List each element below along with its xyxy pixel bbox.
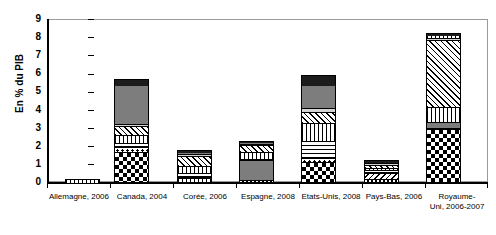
x-axis-label-royaume-uni: Royaume- Uni, 2006-2007 xyxy=(420,192,494,212)
y-tick-marks xyxy=(47,19,48,183)
bar-segment xyxy=(240,153,273,160)
bar-segment xyxy=(240,146,273,153)
x-axis-label-canada: Canada, 2004 xyxy=(107,192,177,202)
bar-segment xyxy=(427,41,460,108)
bar-segment xyxy=(302,86,335,109)
bar-segment xyxy=(240,161,273,182)
bar-segment xyxy=(365,174,398,181)
bar-segment xyxy=(178,167,211,175)
bar-etats-unis xyxy=(301,75,336,184)
y-tick-label: 1 xyxy=(15,159,41,169)
y-tick-label: 0 xyxy=(15,177,41,187)
bar-segment xyxy=(302,163,335,183)
bar-coree xyxy=(177,150,212,184)
bar-canada xyxy=(114,79,149,184)
bar-segment xyxy=(178,157,211,167)
bar-segment xyxy=(178,179,211,182)
x-axis-label-etats-unis: Etats-Unis, 2008 xyxy=(295,192,367,202)
bar-allemagne xyxy=(65,179,100,184)
bar-segment xyxy=(427,108,460,123)
bar-segment xyxy=(115,86,148,125)
chart-container: 9 8 7 6 5 4 3 2 1 0 En % du PIB xyxy=(0,0,496,235)
y-axis-title: En % du PIB xyxy=(14,29,25,139)
bar-royaume-uni xyxy=(426,33,461,184)
x-axis-label-pays-bas: Pays-Bas, 2006 xyxy=(359,192,429,202)
bar-segment xyxy=(66,180,99,183)
bar-segment xyxy=(302,113,335,125)
y-tick-label: 2 xyxy=(15,141,41,151)
bar-segment xyxy=(115,153,148,183)
x-axis-label-coree: Corée, 2006 xyxy=(170,192,240,202)
bar-segment xyxy=(115,127,148,136)
bar-segment xyxy=(302,124,335,142)
bar-pays-bas xyxy=(364,160,399,184)
bar-segment xyxy=(365,180,398,183)
x-axis-label-allemagne: Allemagne, 2006 xyxy=(44,192,114,202)
x-axis-label-espagne: Espagne, 2008 xyxy=(233,192,303,202)
bar-segment xyxy=(302,76,335,86)
bar-segment xyxy=(302,142,335,159)
bar-segment xyxy=(240,181,273,183)
y-tick-label: 9 xyxy=(15,14,41,24)
bar-segment xyxy=(427,130,460,183)
bar-espagne xyxy=(239,141,274,184)
bar-segment xyxy=(115,136,148,144)
